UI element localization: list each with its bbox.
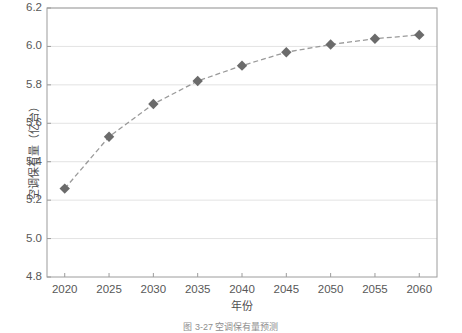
x-axis-title: 年份 [47,297,437,313]
y-tick-label: 5.2 [2,194,42,205]
figure-caption: 图 3-27 空调保有量预测 [0,320,462,333]
plot-background [47,8,437,277]
y-axis-title: 空调保有量（亿台） [25,70,41,230]
y-tick-label: 4.8 [2,271,42,282]
x-tick-label: 2030 [128,284,178,295]
y-tick-label: 5.4 [2,156,42,167]
y-tick-label: 6.0 [2,40,42,51]
x-tick-label: 2040 [217,284,267,295]
y-tick-label: 5.8 [2,79,42,90]
y-tick-label: 5.6 [2,117,42,128]
y-tick-label: 6.2 [2,2,42,13]
x-tick-label: 2035 [173,284,223,295]
x-tick-label: 2055 [350,284,400,295]
x-tick-label: 2020 [40,284,90,295]
x-tick-label: 2060 [394,284,444,295]
y-tick-label: 5.0 [2,233,42,244]
x-tick-label: 2045 [261,284,311,295]
x-tick-label: 2025 [84,284,134,295]
x-tick-label: 2050 [306,284,356,295]
